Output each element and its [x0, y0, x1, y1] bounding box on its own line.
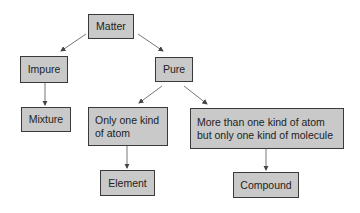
- node-multi-atom: More than one kind of atom but only one …: [190, 108, 344, 149]
- arrow-matter-pure: [138, 34, 163, 51]
- node-one-atom-label: Only one kind of atom: [95, 114, 163, 140]
- node-impure-label: Impure: [28, 63, 61, 76]
- node-one-atom: Only one kind of atom: [88, 107, 168, 146]
- node-pure: Pure: [155, 57, 193, 82]
- arrow-matter-impure: [61, 34, 86, 51]
- node-compound: Compound: [233, 172, 299, 198]
- node-matter-label: Matter: [96, 20, 126, 33]
- node-compound-label: Compound: [240, 179, 291, 192]
- arrow-pure-oneatom: [139, 86, 162, 103]
- node-impure: Impure: [20, 56, 68, 83]
- node-mixture-label: Mixture: [29, 113, 63, 126]
- node-matter: Matter: [88, 14, 134, 39]
- node-mixture: Mixture: [21, 107, 71, 132]
- node-pure-label: Pure: [163, 63, 185, 76]
- node-element: Element: [100, 170, 155, 196]
- node-multi-atom-label: More than one kind of atom but only one …: [197, 116, 339, 142]
- arrow-pure-multiatom: [184, 86, 207, 104]
- node-element-label: Element: [108, 177, 147, 190]
